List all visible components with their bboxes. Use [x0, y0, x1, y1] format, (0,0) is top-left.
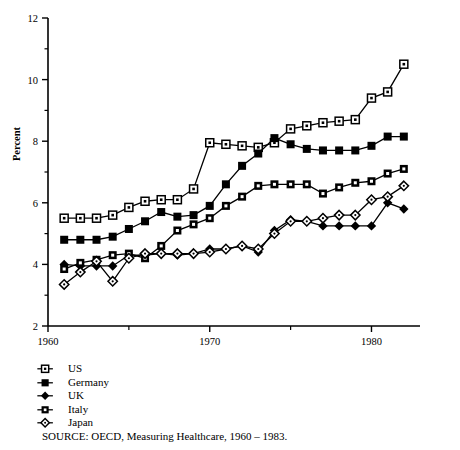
marker-filled-square — [351, 146, 359, 154]
marker-open-diamond-center — [273, 233, 275, 235]
marker-open-diamond-center — [112, 280, 114, 282]
marker-open-diamond-center — [225, 248, 227, 250]
marker-open-center-dot — [402, 167, 405, 170]
y-axis-tick-label: 2 — [33, 321, 38, 332]
marker-open-square-center — [144, 200, 147, 203]
marker-open-center-dot — [338, 186, 341, 189]
marker-filled-square — [335, 146, 343, 154]
marker-filled-diamond — [399, 204, 408, 213]
marker-open-square-center — [322, 121, 325, 124]
legend-marker-open-diamond-icon — [36, 416, 62, 430]
y-axis-tick-label: 8 — [33, 136, 38, 147]
marker-open-diamond-center — [403, 185, 405, 187]
marker-open-diamond-center — [306, 220, 308, 222]
marker-open-square-center — [241, 145, 244, 148]
marker-open-center-dot — [176, 229, 179, 232]
marker-open-diamond-center — [290, 220, 292, 222]
series-line — [64, 64, 404, 218]
x-axis-tick-label: 1980 — [361, 336, 382, 347]
marker-open-center-dot — [354, 181, 357, 184]
marker-open-diamond-center — [95, 260, 97, 262]
marker-open-center-dot — [305, 183, 308, 186]
chart-figure: 24681012196019701980Percent US Germany U… — [0, 0, 460, 450]
marker-open-square-center — [338, 120, 341, 123]
marker-open-center-dot — [289, 183, 292, 186]
legend-item-japan: Japan — [36, 416, 109, 430]
marker-open-square-center — [128, 206, 131, 209]
marker-filled-diamond — [367, 221, 376, 230]
legend-item-uk: UK — [36, 389, 109, 403]
marker-open-diamond-center — [192, 253, 194, 255]
marker-open-center-dot — [192, 223, 195, 226]
marker-open-square-center — [370, 97, 373, 100]
marker-open-diamond-center — [44, 422, 46, 424]
marker-open-diamond-center — [354, 214, 356, 216]
legend-label-uk: UK — [62, 389, 84, 403]
legend-item-italy: Italy — [36, 403, 109, 417]
marker-open-center-dot — [370, 180, 373, 183]
marker-open-center-dot — [257, 184, 260, 187]
legend-marker-filled-square-icon — [36, 376, 62, 390]
marker-open-square-center — [79, 217, 82, 220]
marker-filled-square — [222, 180, 230, 188]
marker-filled-square — [384, 133, 392, 141]
marker-filled-square — [190, 211, 198, 219]
marker-filled-square — [254, 150, 262, 158]
marker-open-diamond-center — [63, 283, 65, 285]
marker-open-center-dot — [208, 217, 211, 220]
chart-legend: US Germany UK Italy Japan — [36, 362, 109, 430]
source-note: SOURCE: OECD, Measuring Healthcare, 1960… — [42, 430, 287, 442]
marker-filled-square — [287, 140, 295, 148]
legend-item-germany: Germany — [36, 376, 109, 390]
marker-open-square-center — [192, 188, 195, 191]
marker-open-center-dot — [273, 183, 276, 186]
marker-open-square-center — [176, 198, 179, 201]
marker-open-center-dot — [386, 172, 389, 175]
marker-open-square-center — [403, 63, 406, 66]
legend-label-germany: Germany — [62, 376, 109, 390]
legend-item-us: US — [36, 362, 109, 376]
marker-open-square-center — [225, 143, 228, 146]
marker-open-diamond-center — [338, 214, 340, 216]
y-axis-title: Percent — [11, 126, 22, 161]
marker-filled-square — [270, 134, 278, 142]
marker-filled-square — [206, 202, 214, 210]
legend-label-italy: Italy — [62, 403, 88, 417]
marker-filled-diamond — [41, 392, 49, 400]
marker-open-center-dot — [160, 244, 163, 247]
legend-label-japan: Japan — [62, 416, 93, 430]
series-us — [60, 60, 408, 222]
marker-open-center-dot — [224, 204, 227, 207]
marker-filled-square — [157, 208, 165, 216]
x-axis-tick-label: 1970 — [199, 336, 220, 347]
marker-filled-square — [76, 236, 84, 244]
marker-open-square-center — [386, 91, 389, 94]
marker-filled-diamond — [108, 261, 117, 270]
marker-open-square-center — [257, 146, 260, 149]
marker-filled-square — [319, 146, 327, 154]
y-axis-tick-label: 12 — [28, 13, 39, 24]
legend-marker-filled-square-open-center-icon — [36, 403, 62, 417]
marker-filled-square — [125, 225, 133, 233]
marker-open-diamond-center — [241, 245, 243, 247]
marker-open-center-dot — [79, 261, 82, 264]
marker-open-diamond-center — [257, 248, 259, 250]
y-axis-tick-label: 4 — [33, 259, 39, 270]
marker-filled-square — [60, 236, 68, 244]
marker-open-diamond-center — [209, 251, 211, 253]
marker-open-center-dot — [63, 268, 66, 271]
marker-open-diamond-center — [144, 253, 146, 255]
marker-open-square-center — [160, 198, 163, 201]
marker-filled-diamond — [351, 221, 360, 230]
marker-open-square-center — [208, 141, 211, 144]
marker-open-center-dot — [321, 192, 324, 195]
marker-filled-square — [238, 162, 246, 170]
marker-open-diamond-center — [387, 196, 389, 198]
marker-filled-diamond — [334, 221, 343, 230]
marker-open-center-dot — [111, 254, 114, 257]
legend-marker-filled-diamond-icon — [36, 389, 62, 403]
marker-open-square-center — [44, 368, 46, 370]
marker-filled-square — [109, 233, 117, 241]
marker-filled-square — [400, 133, 408, 141]
marker-open-diamond-center — [160, 253, 162, 255]
